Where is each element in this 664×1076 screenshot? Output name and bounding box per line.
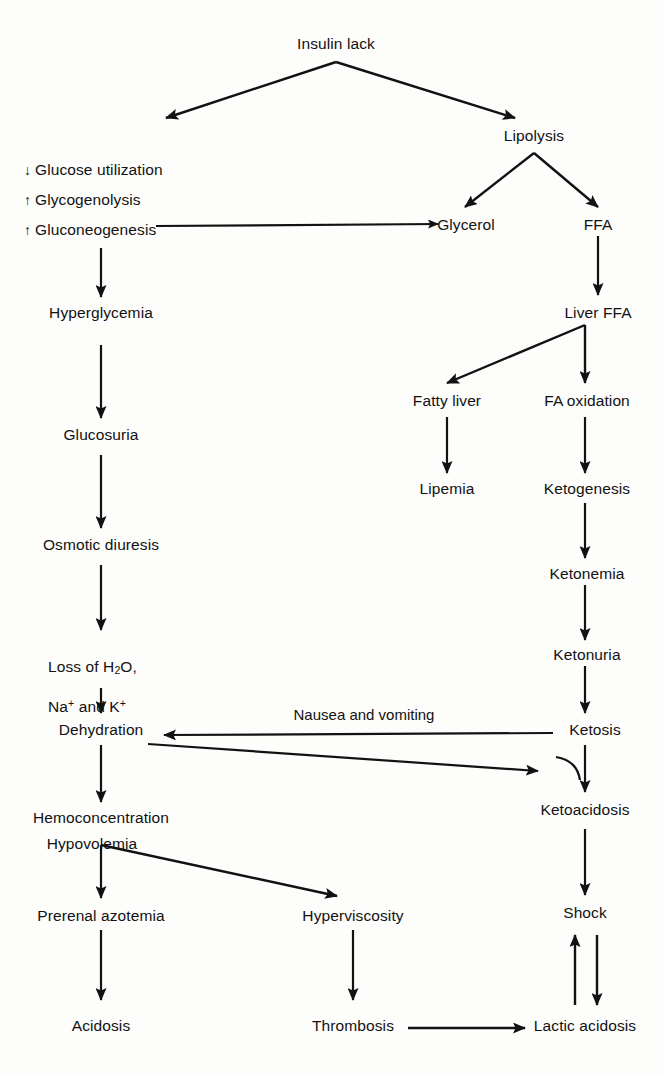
up-arrow-icon-2: ↑ bbox=[24, 222, 35, 240]
arrow-merge-curve bbox=[556, 757, 580, 780]
node-glycogenolysis[interactable]: ↑Glycogenolysis bbox=[24, 190, 141, 210]
node-liver-ffa[interactable]: Liver FFA bbox=[564, 303, 631, 323]
node-ketonemia[interactable]: Ketonemia bbox=[549, 564, 624, 584]
node-dehydration[interactable]: Dehydration bbox=[59, 720, 144, 740]
node-thrombosis[interactable]: Thrombosis bbox=[312, 1016, 394, 1036]
node-hyperviscosity[interactable]: Hyperviscosity bbox=[302, 906, 403, 926]
node-ffa[interactable]: FFA bbox=[584, 215, 613, 235]
node-ketoacidosis[interactable]: Ketoacidosis bbox=[540, 800, 629, 820]
node-ketonuria[interactable]: Ketonuria bbox=[553, 645, 620, 665]
node-ketogenesis[interactable]: Ketogenesis bbox=[544, 479, 630, 499]
arrow-insulin-to-left bbox=[166, 62, 336, 118]
node-ketosis[interactable]: Ketosis bbox=[569, 720, 621, 740]
flowchart-page: Insulin lack Lipolysis ↓Glucose utilizat… bbox=[0, 0, 664, 1076]
arrow-gluconeogenesis-to-glycerol bbox=[156, 224, 438, 226]
node-fa-oxidation[interactable]: FA oxidation bbox=[544, 391, 630, 411]
arrow-lipolysis-to-glycerol bbox=[465, 153, 534, 207]
arrow-ketosis-to-dehydration bbox=[164, 733, 553, 735]
node-lipolysis[interactable]: Lipolysis bbox=[504, 126, 564, 146]
node-shock[interactable]: Shock bbox=[563, 903, 607, 923]
node-gluconeogenesis[interactable]: ↑Gluconeogenesis bbox=[24, 220, 156, 240]
node-hemoconcentration[interactable]: Hemoconcentration bbox=[33, 808, 169, 828]
arrow-lipolysis-to-ffa bbox=[534, 153, 598, 207]
edge-label-nausea-vomiting: Nausea and vomiting bbox=[294, 706, 435, 723]
node-glucose-utilization[interactable]: ↓Glucose utilization bbox=[24, 160, 163, 180]
node-osmotic-diuresis[interactable]: Osmotic diuresis bbox=[43, 535, 159, 555]
node-fatty-liver[interactable]: Fatty liver bbox=[413, 391, 481, 411]
arrow-dehydration-to-ketoacidosis bbox=[148, 744, 538, 771]
node-prerenal-azotemia[interactable]: Prerenal azotemia bbox=[37, 906, 165, 926]
loss-line-2: Na+ and K+ bbox=[48, 697, 137, 717]
arrow-liverffa-to-fattyliver bbox=[447, 325, 585, 383]
node-hypovolemia[interactable]: Hypovolemia bbox=[47, 834, 138, 854]
up-arrow-icon: ↑ bbox=[24, 192, 35, 210]
node-glucose-utilization-label: Glucose utilization bbox=[35, 161, 163, 178]
node-glucosuria[interactable]: Glucosuria bbox=[63, 425, 138, 445]
down-arrow-icon: ↓ bbox=[24, 162, 35, 180]
node-glycerol[interactable]: Glycerol bbox=[437, 215, 495, 235]
node-lipemia[interactable]: Lipemia bbox=[420, 479, 475, 499]
node-acidosis[interactable]: Acidosis bbox=[72, 1016, 131, 1036]
arrow-insulin-to-lipolysis bbox=[336, 62, 515, 118]
node-gluconeogenesis-label: Gluconeogenesis bbox=[35, 221, 156, 238]
node-lactic-acidosis[interactable]: Lactic acidosis bbox=[534, 1016, 636, 1036]
node-insulin-lack[interactable]: Insulin lack bbox=[297, 34, 375, 54]
node-hyperglycemia[interactable]: Hyperglycemia bbox=[49, 303, 153, 323]
loss-line-1: Loss of H2O, bbox=[48, 657, 137, 678]
node-glycogenolysis-label: Glycogenolysis bbox=[35, 191, 141, 208]
